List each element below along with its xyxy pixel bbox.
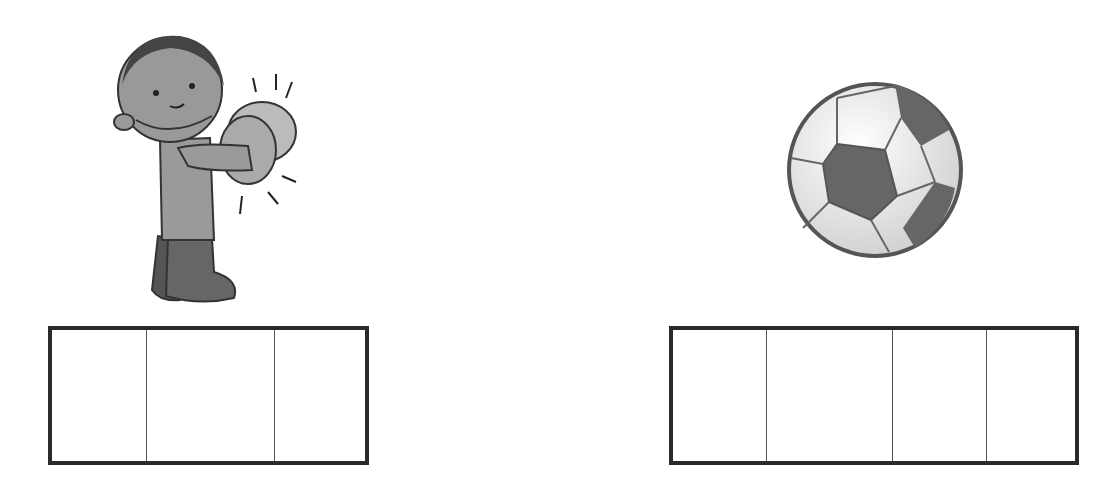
letter-cell-1[interactable] [673,330,767,461]
letter-cell-1[interactable] [52,330,147,461]
boy-playing-cymbals-icon [110,30,310,305]
word-box-ball [669,326,1079,465]
letter-cell-3[interactable] [275,330,365,461]
letter-cell-4[interactable] [987,330,1075,461]
word-box-cymbals [48,326,369,465]
letter-cell-2[interactable] [767,330,893,461]
letter-cell-3[interactable] [893,330,987,461]
soccer-ball-icon [785,78,965,262]
letter-cell-2[interactable] [147,330,275,461]
